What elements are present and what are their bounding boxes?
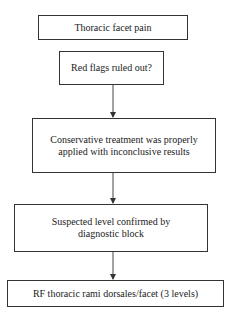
node-label-line-1: Conservative treatment was properly bbox=[50, 134, 197, 146]
node-label: RF thoracic rami dorsales/facet (3 level… bbox=[33, 288, 198, 300]
node-rf-thoracic-rami: RF thoracic rami dorsales/facet (3 level… bbox=[7, 280, 224, 307]
node-suspected-level-confirmed: Suspected level confirmed by diagnostic … bbox=[14, 204, 208, 252]
node-label: Thoracic facet pain bbox=[74, 22, 151, 34]
node-label-line-2: applied with inconclusive results bbox=[58, 146, 189, 158]
node-thoracic-facet-pain: Thoracic facet pain bbox=[38, 15, 188, 40]
node-label-line-1: Suspected level confirmed by bbox=[52, 216, 171, 228]
node-label-line-2: diagnostic block bbox=[78, 228, 144, 240]
node-conservative-treatment: Conservative treatment was properly appl… bbox=[32, 118, 216, 173]
node-label: Red flags ruled out? bbox=[71, 62, 152, 74]
node-red-flags-ruled-out: Red flags ruled out? bbox=[59, 51, 164, 85]
